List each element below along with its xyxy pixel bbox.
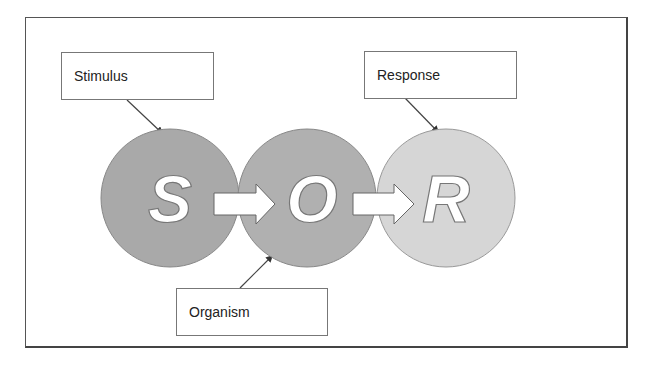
organism-pointer-arrow <box>240 255 273 288</box>
response-label: Response <box>377 67 440 83</box>
letter-s: S <box>148 162 192 236</box>
response-pointer-arrow <box>405 98 439 133</box>
stimulus-pointer-arrow <box>127 100 163 134</box>
response-label-box: Response <box>364 51 517 99</box>
stimulus-label-box: Stimulus <box>61 52 214 100</box>
organism-label-box: Organism <box>176 288 328 336</box>
letter-r: R <box>422 162 470 236</box>
stimulus-label: Stimulus <box>74 68 128 84</box>
organism-label: Organism <box>189 304 250 320</box>
letter-o: O <box>286 162 337 236</box>
